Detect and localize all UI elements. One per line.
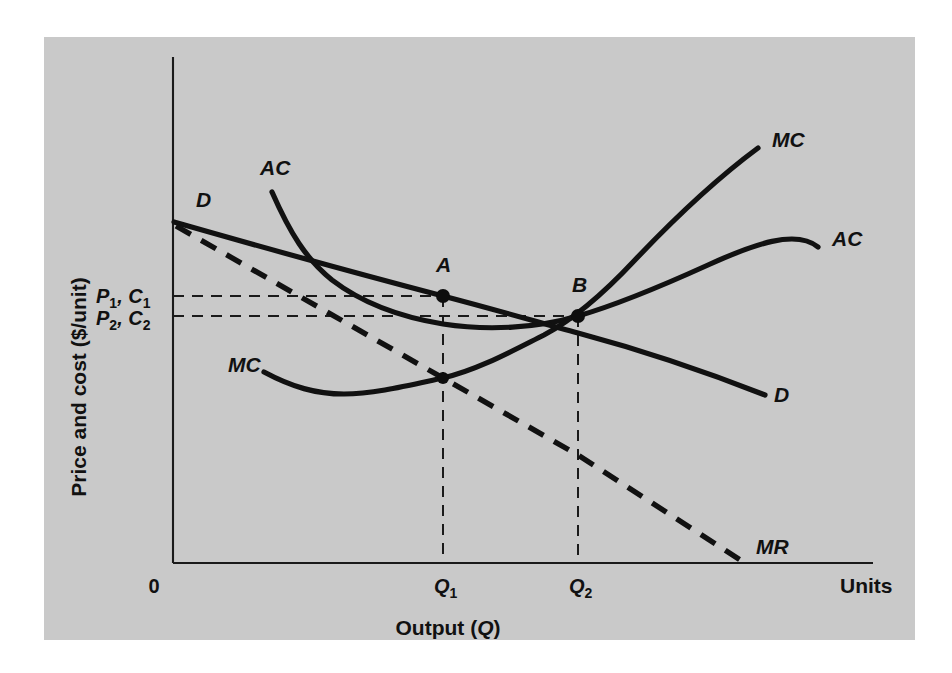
curves-group [174, 148, 818, 563]
marginal-revenue-curve [176, 226, 745, 563]
marginal-cost-right-label: MC [772, 128, 805, 151]
figure-panel-background: D AC MC MC AC D MR A B P1, C1 P2, C2 [44, 37, 915, 640]
x-tick-label-q2: Q2 [569, 575, 593, 601]
x-axis-title: Output (Q) [396, 616, 501, 639]
y-tick-c1-sub: 1 [143, 295, 151, 311]
y-tick-c2-sub: 2 [143, 317, 151, 333]
y-tick-p2-sub: 2 [109, 317, 117, 333]
average-cost-left-label: AC [259, 156, 291, 179]
x-axis-title-var: Q [477, 616, 493, 639]
point-b-label: B [572, 273, 587, 296]
x-axis-end-label: Units [840, 574, 893, 597]
marginal-cost-curve [264, 148, 758, 394]
marginal-revenue-label: MR [756, 535, 789, 558]
x-tick-q2-sub: 2 [585, 585, 593, 601]
x-axis-title-text: Output ( [396, 616, 478, 639]
point-a-dot [436, 289, 450, 303]
x-axis-title-close: ) [493, 616, 500, 639]
point-labels-group: A B [435, 253, 587, 296]
x-tick-q1-prefix: Q [434, 575, 450, 597]
axis-group [173, 57, 873, 563]
x-tick-label-q1: Q1 [434, 575, 458, 601]
point-b-dot [571, 309, 585, 323]
point-mc-mr-intersection-dot [437, 372, 449, 384]
average-cost-right-label: AC [831, 227, 863, 250]
x-tick-labels-group: 0 Q1 Q2 Units [148, 574, 892, 601]
point-a-label: A [435, 253, 451, 276]
average-cost-curve [272, 192, 818, 328]
guide-lines-group [173, 296, 578, 563]
y-tick-p1-sub: 1 [109, 295, 117, 311]
x-tick-q1-sub: 1 [450, 585, 458, 601]
marginal-cost-left-label: MC [228, 353, 261, 376]
x-tick-q2-prefix: Q [569, 575, 585, 597]
demand-right-label: D [774, 383, 789, 406]
demand-left-label: D [196, 188, 211, 211]
y-axis-title: Price and cost ($/unit) [67, 277, 90, 496]
y-tick-label-p2c2: P2, C2 [96, 307, 151, 333]
economics-chart: D AC MC MC AC D MR A B P1, C1 P2, C2 [44, 37, 915, 640]
marked-points-group [436, 289, 585, 384]
y-tick-c1-mid: , C [116, 285, 143, 307]
y-tick-p1-prefix: P [96, 285, 110, 307]
origin-label: 0 [148, 575, 159, 597]
y-tick-c2-mid: , C [116, 307, 143, 329]
y-tick-p2-prefix: P [96, 307, 110, 329]
figure-root: D AC MC MC AC D MR A B P1, C1 P2, C2 [0, 0, 952, 673]
y-tick-labels-group: P1, C1 P2, C2 [96, 285, 151, 333]
